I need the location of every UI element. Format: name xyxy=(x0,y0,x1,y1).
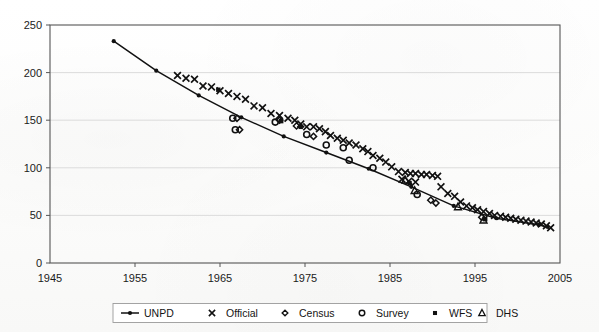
series-survey xyxy=(230,115,420,197)
legend-label: DHS xyxy=(496,307,518,319)
chart-legend: UNPDOfficialCensusSurveyWFSDHS xyxy=(113,304,518,323)
data-point-dot xyxy=(545,225,549,229)
x-axis-tick-label: 1995 xyxy=(463,272,487,284)
y-axis-tick-label: 100 xyxy=(24,162,42,174)
data-point-dot xyxy=(494,216,498,220)
data-point-x xyxy=(451,193,458,200)
data-point-x xyxy=(200,83,207,90)
data-point-x xyxy=(251,103,258,110)
data-point-dot xyxy=(197,93,201,97)
data-point-dot xyxy=(282,134,286,138)
data-point-dot xyxy=(324,150,328,154)
data-point-x xyxy=(334,135,341,142)
data-point-x xyxy=(310,123,317,130)
data-point-x xyxy=(191,76,198,83)
data-point-filled-square xyxy=(216,88,220,92)
x-axis-tick-label: 1985 xyxy=(378,272,402,284)
x-axis-tick-label: 1965 xyxy=(208,272,232,284)
legend-label: Census xyxy=(299,307,335,319)
data-point-x xyxy=(438,183,445,190)
data-point-filled-square xyxy=(279,119,283,123)
data-point-circle xyxy=(340,145,346,151)
series-official xyxy=(174,72,554,231)
data-point-filled-square xyxy=(433,311,437,315)
data-point-x xyxy=(174,72,181,79)
y-axis-tick-label: 0 xyxy=(36,257,42,269)
data-point-x xyxy=(353,142,360,149)
x-axis-tick-label: 1955 xyxy=(123,272,147,284)
y-axis-tick-label: 250 xyxy=(24,19,42,31)
legend-label: UNPD xyxy=(144,307,174,319)
data-point-dot xyxy=(409,185,413,189)
y-axis-tick-label: 200 xyxy=(24,67,42,79)
data-point-x xyxy=(395,168,402,175)
data-point-circle xyxy=(304,131,310,137)
data-point-circle xyxy=(323,142,329,148)
x-axis-tick-label: 1945 xyxy=(38,272,62,284)
chart-figure: 0501001502002501945195519651975198519952… xyxy=(0,0,599,332)
data-point-dot xyxy=(239,115,243,119)
mortality-rate-scatter-chart: 0501001502002501945195519651975198519952… xyxy=(0,0,599,332)
data-point-x xyxy=(234,93,241,100)
data-point-x xyxy=(183,75,190,82)
data-point-x xyxy=(444,190,451,197)
y-axis: 050100150200250 xyxy=(24,19,50,269)
x-axis-tick-label: 1975 xyxy=(293,272,317,284)
legend-label: Official xyxy=(226,307,258,319)
data-point-x xyxy=(242,96,249,103)
data-point-dot xyxy=(537,223,541,227)
data-point-x xyxy=(208,83,215,90)
series-unpd xyxy=(112,39,550,229)
legend-label: WFS xyxy=(449,307,472,319)
data-point-dot xyxy=(367,167,371,171)
data-point-dot xyxy=(112,39,116,43)
data-point-dot xyxy=(128,311,132,315)
data-point-x xyxy=(423,171,430,178)
data-point-filled-square xyxy=(299,125,303,129)
y-axis-tick-label: 50 xyxy=(30,209,42,221)
y-axis-tick-label: 150 xyxy=(24,114,42,126)
x-axis-tick-label: 2005 xyxy=(548,272,572,284)
data-point-x xyxy=(285,115,292,122)
legend-label: Survey xyxy=(376,307,409,319)
x-axis: 1945195519651975198519952005 xyxy=(38,263,572,284)
data-point-x xyxy=(388,163,395,170)
data-point-dot xyxy=(154,69,158,73)
data-point-x xyxy=(376,155,383,162)
data-point-diamond xyxy=(310,133,316,139)
unpd-trend-line xyxy=(114,41,548,227)
data-point-x xyxy=(412,170,419,177)
data-point-x xyxy=(412,179,419,186)
data-point-x xyxy=(434,173,441,180)
data-point-dot xyxy=(452,204,456,208)
data-point-x xyxy=(259,104,266,111)
data-point-x xyxy=(268,110,275,117)
data-point-x xyxy=(225,90,232,97)
